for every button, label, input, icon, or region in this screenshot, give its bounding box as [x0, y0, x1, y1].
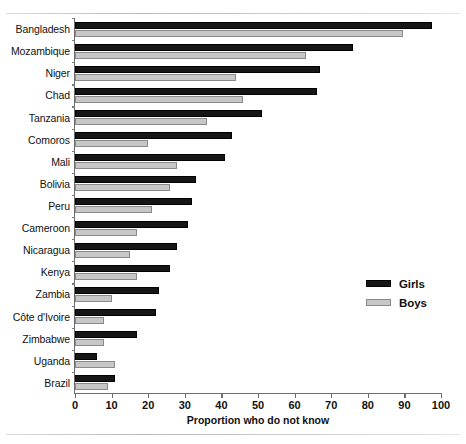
bar-boys [75, 229, 137, 236]
y-axis-tick [72, 151, 76, 152]
y-axis-tick [72, 306, 76, 307]
bar-row: Uganda [75, 350, 441, 372]
bar-boys [75, 317, 104, 324]
category-label: Côte d'Ivoire [13, 311, 70, 323]
bar-boys [75, 383, 108, 390]
bar-girls [75, 287, 159, 294]
x-tick-label: 70 [325, 399, 337, 411]
x-tick-mark [295, 394, 296, 398]
bar-row: Nicaragua [75, 239, 441, 261]
legend-swatch-boys-icon [366, 299, 391, 307]
bar-girls [75, 66, 320, 73]
bar-boys [75, 206, 152, 213]
x-tick-mark [112, 394, 113, 398]
bar-row: Mali [75, 151, 441, 173]
bar-girls [75, 110, 262, 117]
y-axis-tick [72, 239, 76, 240]
y-axis-tick [72, 18, 76, 19]
bar-girls [75, 265, 170, 272]
bar-boys [75, 339, 104, 346]
bar-boys [75, 162, 177, 169]
category-label: Brazil [44, 377, 70, 389]
plot-area: BangladeshMozambiqueNigerChadTanzaniaCom… [75, 18, 441, 394]
bar-girls [75, 221, 188, 228]
bar-boys [75, 140, 148, 147]
y-axis-tick [72, 106, 76, 107]
y-axis-tick [72, 195, 76, 196]
category-label: Tanzania [29, 112, 70, 124]
bar-girls [75, 353, 97, 360]
x-tick-mark [368, 394, 369, 398]
category-label: Zimbabwe [22, 333, 70, 345]
x-tick-label: 0 [72, 399, 78, 411]
page-bottom-rule [6, 434, 460, 435]
bar-row: Tanzania [75, 106, 441, 128]
x-tick-mark [404, 394, 405, 398]
category-label: Bolivia [40, 178, 70, 190]
bar-boys [75, 30, 403, 37]
category-label: Nicaragua [23, 244, 70, 256]
bar-girls [75, 331, 137, 338]
y-axis-tick [72, 62, 76, 63]
bar-row: Niger [75, 62, 441, 84]
bar-girls [75, 154, 225, 161]
bar-row: Chad [75, 84, 441, 106]
category-label: Zambia [36, 288, 70, 300]
category-label: Chad [45, 89, 70, 101]
bar-girls [75, 132, 232, 139]
bar-boys [75, 96, 243, 103]
category-label: Comoros [28, 134, 70, 146]
page-top-rule [6, 13, 460, 14]
bar-row: Brazil [75, 372, 441, 394]
x-tick-label: 60 [288, 399, 300, 411]
x-tick-mark [185, 394, 186, 398]
bar-row: Comoros [75, 129, 441, 151]
bar-boys [75, 74, 236, 81]
x-tick-label: 30 [179, 399, 191, 411]
bar-girls [75, 44, 353, 51]
legend-label-boys: Boys [399, 297, 427, 309]
category-label: Bangladesh [16, 23, 70, 35]
bar-boys [75, 273, 137, 280]
legend-swatch-girls-icon [366, 280, 391, 288]
bar-boys [75, 295, 112, 302]
bar-rows: BangladeshMozambiqueNigerChadTanzaniaCom… [75, 18, 441, 394]
bar-girls [75, 176, 196, 183]
y-axis-tick [72, 283, 76, 284]
x-tick-label: 40 [215, 399, 227, 411]
bar-boys [75, 251, 130, 258]
y-axis-tick [72, 350, 76, 351]
x-tick-label: 10 [105, 399, 117, 411]
bar-row: Bangladesh [75, 18, 441, 40]
category-label: Kenya [41, 266, 70, 278]
y-axis-tick [72, 40, 76, 41]
legend-label-girls: Girls [399, 278, 425, 290]
bar-girls [75, 243, 177, 250]
category-label: Uganda [34, 355, 70, 367]
bar-girls [75, 375, 115, 382]
chart-legend: Girls Boys [366, 276, 427, 314]
bar-row: Zimbabwe [75, 328, 441, 350]
bar-girls [75, 309, 156, 316]
category-label: Niger [45, 67, 70, 79]
legend-item-boys: Boys [366, 295, 427, 310]
bar-row: Mozambique [75, 40, 441, 62]
x-tick-mark [331, 394, 332, 398]
bar-boys [75, 118, 207, 125]
legend-item-girls: Girls [366, 276, 427, 291]
x-tick-mark [221, 394, 222, 398]
y-axis-tick [72, 217, 76, 218]
x-tick-label: 20 [142, 399, 154, 411]
bar-girls [75, 88, 317, 95]
category-label: Cameroon [22, 222, 70, 234]
x-tick-mark [258, 394, 259, 398]
bar-boys [75, 184, 170, 191]
y-axis-tick [72, 328, 76, 329]
x-tick-label: 100 [432, 399, 450, 411]
x-tick-mark [148, 394, 149, 398]
y-axis-tick [72, 372, 76, 373]
bar-row: Cameroon [75, 217, 441, 239]
bar-boys [75, 361, 115, 368]
x-tick-label: 80 [362, 399, 374, 411]
category-label: Mali [51, 156, 70, 168]
